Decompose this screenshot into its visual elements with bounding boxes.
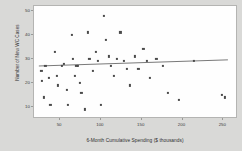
data-point	[48, 77, 50, 79]
data-point	[137, 67, 139, 69]
data-point	[149, 77, 151, 79]
x-tick-label: 150	[132, 122, 150, 127]
data-point	[77, 65, 79, 67]
data-point	[129, 84, 131, 86]
x-tick-label: 250	[213, 122, 231, 127]
data-point	[56, 75, 58, 77]
data-point	[74, 75, 76, 77]
data-point	[142, 48, 144, 50]
data-point	[40, 70, 42, 72]
y-axis-title: Number of New WC Cases	[15, 3, 20, 103]
data-point	[119, 31, 121, 33]
data-point	[105, 39, 107, 41]
data-point	[61, 65, 63, 67]
data-point	[193, 60, 195, 62]
data-point	[178, 99, 180, 101]
data-point	[43, 96, 45, 98]
data-point	[224, 96, 226, 98]
data-point	[97, 60, 99, 62]
y-tick-label: 20	[16, 79, 30, 84]
x-tick-label: 100	[91, 122, 109, 127]
data-point	[63, 63, 65, 65]
data-point	[167, 91, 169, 93]
data-point	[88, 58, 90, 60]
y-tick-label: 50	[16, 7, 30, 12]
data-point	[116, 58, 118, 60]
data-point	[79, 82, 81, 84]
data-point	[113, 75, 115, 77]
data-point	[108, 55, 110, 57]
data-point	[95, 51, 97, 53]
x-tick-label: 50	[50, 122, 68, 127]
data-point	[67, 103, 69, 105]
x-axis-title: 6-Month Cumulative Spending ($ thousands…	[33, 138, 237, 143]
data-point	[134, 55, 136, 57]
data-point	[57, 84, 59, 86]
data-point	[83, 108, 85, 110]
data-point	[123, 60, 125, 62]
x-tick-mark	[182, 118, 183, 120]
data-point	[70, 34, 72, 36]
data-point	[80, 91, 82, 93]
data-point	[110, 65, 112, 67]
data-point	[54, 51, 56, 53]
x-tick-mark	[59, 118, 60, 120]
data-point	[221, 94, 223, 96]
data-point	[146, 60, 148, 62]
y-tick-label: 30	[16, 55, 30, 60]
data-point	[41, 79, 43, 81]
y-tick-label: 40	[16, 31, 30, 36]
scatter-points	[34, 6, 236, 117]
data-point	[155, 58, 157, 60]
data-point	[66, 89, 68, 91]
data-point	[49, 103, 51, 105]
data-point	[100, 103, 102, 105]
data-point	[92, 70, 94, 72]
chart-screenshot: Number of New WC Cases 1020304050 501001…	[0, 0, 242, 151]
x-tick-mark	[222, 118, 223, 120]
data-point	[126, 67, 128, 69]
data-point	[72, 58, 74, 60]
data-point	[103, 15, 105, 17]
x-tick-mark	[100, 118, 101, 120]
x-tick-mark	[141, 118, 142, 120]
plot-area	[33, 5, 237, 118]
data-point	[162, 65, 164, 67]
y-tick-label: 10	[16, 103, 30, 108]
data-point	[44, 65, 46, 67]
data-point	[87, 31, 89, 33]
x-tick-label: 200	[173, 122, 191, 127]
